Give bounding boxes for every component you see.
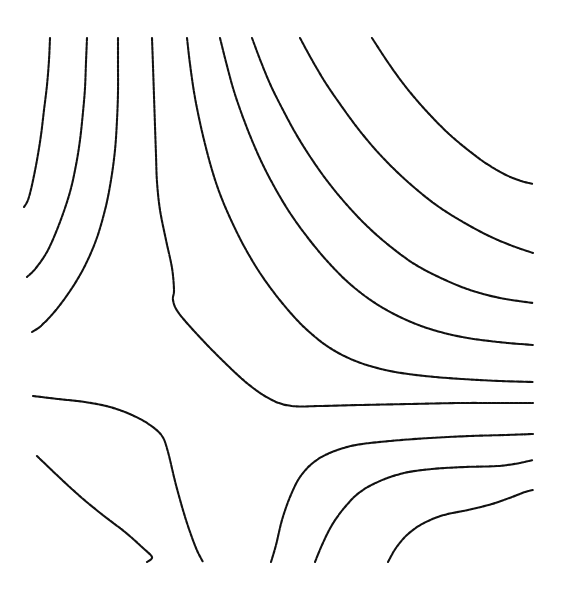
contour-plot-figure (0, 0, 564, 590)
contour-plot-canvas (0, 0, 564, 590)
